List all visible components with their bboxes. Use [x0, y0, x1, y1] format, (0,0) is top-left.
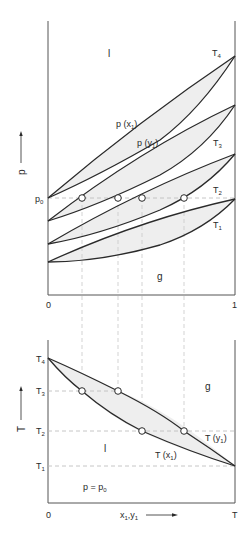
- bottom-x-tick-right: T: [232, 510, 238, 520]
- x-axis-label: x1,y1: [120, 510, 139, 521]
- isotherm-label-T1: T1: [213, 220, 223, 231]
- region-gas-label: g: [157, 271, 163, 282]
- intersection-point: [181, 195, 188, 202]
- px1-label: p (x1): [116, 119, 137, 130]
- region-liquid-label: l: [104, 443, 106, 454]
- T-axis-arrow-head: [19, 386, 22, 391]
- bottom-diagram: T T4 T3 T2 T1 g l T (y1) T (x1) p = p0 0…: [16, 340, 238, 521]
- intersection-point: [79, 388, 86, 395]
- constant-pressure-label: p = p0: [83, 482, 107, 493]
- intersection-point: [139, 195, 146, 202]
- region-liquid-label: l: [108, 48, 110, 59]
- temp-tick-T2: T2: [36, 426, 46, 437]
- py1-label: p (y1): [137, 138, 158, 149]
- Ty1-label: T (y1): [205, 433, 227, 444]
- x-axis-arrow-head: [172, 513, 178, 516]
- p-axis-arrow-head: [19, 131, 22, 136]
- isotherm-label-T4: T4: [212, 48, 222, 59]
- region-gas-label: g: [205, 381, 211, 392]
- temp-tick-T3: T3: [36, 386, 46, 397]
- intersection-point: [115, 388, 122, 395]
- top-x-tick-0: 0: [46, 300, 51, 310]
- p-axis-label: p: [16, 169, 27, 175]
- intersection-point: [181, 428, 188, 435]
- isotherm-label-T2: T2: [213, 185, 223, 196]
- Tx1-label: T (x1): [155, 450, 177, 461]
- intersection-point: [79, 195, 86, 202]
- intersection-point: [115, 195, 122, 202]
- isotherm-label-T3: T3: [213, 138, 223, 149]
- top-diagram: p p0 l g p (x1) p (y1) T4 T3 T2 T1 0 1: [16, 21, 237, 431]
- T-axis-label: T: [16, 426, 27, 432]
- bottom-x-tick-0: 0: [46, 510, 51, 520]
- temp-tick-T1: T1: [36, 461, 46, 472]
- p0-label: p0: [35, 194, 44, 205]
- phase-diagram: p p0 l g p (x1) p (y1) T4 T3 T2 T1 0 1: [0, 0, 252, 549]
- temp-tick-T4: T4: [36, 354, 46, 365]
- intersection-point: [139, 428, 146, 435]
- top-x-tick-1: 1: [232, 300, 237, 310]
